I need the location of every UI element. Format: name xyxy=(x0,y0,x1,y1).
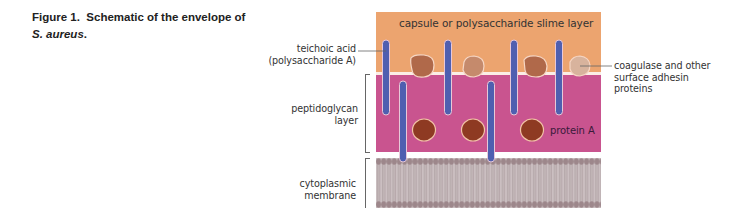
coagulase-label: coagulase and other surface adhesin prot… xyxy=(614,60,734,95)
peptidoglycan-bracket xyxy=(365,74,370,153)
cytoplasmic-membrane xyxy=(376,158,601,208)
teichoic-acid-label: teichoic acid (polysaccharide A) xyxy=(262,43,356,66)
protein-a-label: protein A xyxy=(550,125,595,137)
peptidoglycan-label: peptidoglycan layer xyxy=(262,103,358,126)
membrane-label: cytoplasmic membrane xyxy=(262,178,356,201)
membrane-bracket xyxy=(365,158,370,208)
capsule-label: capsule or polysaccharide slime layer xyxy=(399,18,593,30)
protein-a-blobs xyxy=(413,119,544,141)
